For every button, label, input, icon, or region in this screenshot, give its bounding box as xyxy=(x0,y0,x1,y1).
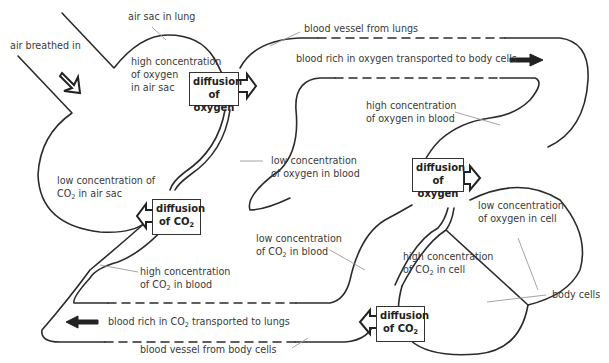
label-low-o2-blood-1: low concentration xyxy=(271,155,357,167)
label-high-o2-air-sac-3: in air sac xyxy=(131,82,175,94)
label-high-o2-blood-1: high concentration xyxy=(366,100,456,112)
box-line-2: of CO2 xyxy=(156,215,197,228)
label-air-sac-in-lung: air sac in lung xyxy=(128,11,195,23)
diffusion-oxygen-cell-box: diffusion of oxygen xyxy=(412,158,464,192)
label-low-o2-cell-1: low concentration xyxy=(478,200,564,212)
label-low-o2-cell-2: of oxygen in cell xyxy=(478,213,557,225)
label-low-co2-air-sac-1: low concentration of xyxy=(57,175,155,187)
label-vessel-from-body: blood vessel from body cells xyxy=(140,344,277,356)
lung-capillary-inner xyxy=(170,110,225,190)
diffusion-co2-cell-box: diffusion of CO2 xyxy=(376,306,425,342)
leader-low-co2-blood xyxy=(330,250,365,270)
diffusion-oxygen-lung-box: diffusion of oxygen xyxy=(189,72,239,106)
leader-high-co2-blood xyxy=(100,265,138,272)
box-line-2: of CO2 xyxy=(380,322,421,335)
label-air-breathed-in: air breathed in xyxy=(10,40,81,52)
left-arrow-icon xyxy=(66,316,98,328)
label-low-co2-blood-1: low concentration xyxy=(256,233,342,245)
box-line-2: of oxygen xyxy=(193,88,235,114)
label-high-o2-blood-2: of oxygen in blood xyxy=(366,113,455,125)
box-line-1: diffusion xyxy=(380,309,421,322)
vessel-upper-bottom xyxy=(249,78,335,210)
leader-body-cells-1 xyxy=(518,238,538,290)
air-in-arrow-icon xyxy=(60,73,80,93)
label-body-cells: body cells xyxy=(552,289,600,301)
leader-body-cells-2 xyxy=(487,295,546,302)
label-vessel-from-lungs: blood vessel from lungs xyxy=(304,23,418,35)
leader-high-o2-blood xyxy=(455,112,500,125)
label-low-co2-blood-2: of CO2 in blood xyxy=(256,246,328,258)
label-high-co2-cell-2: of CO2 in cell xyxy=(403,264,465,276)
o2-cell-arrow-icon xyxy=(464,166,480,190)
label-blood-rich-o2: blood rich in oxygen transported to body… xyxy=(296,53,517,65)
box-line-1: diffusion xyxy=(156,202,197,215)
box-line-2: of oxygen xyxy=(416,174,460,200)
label-low-o2-blood-2: of oxygen in blood xyxy=(271,168,360,180)
vessel-upper-top-end xyxy=(505,38,588,147)
label-high-o2-air-sac-2: of oxygen xyxy=(131,69,178,81)
diffusion-co2-lung-box: diffusion of CO2 xyxy=(152,199,201,235)
label-low-co2-air-sac-2: CO2 in air sac xyxy=(57,188,122,200)
airway-wall-left xyxy=(18,56,146,232)
label-blood-rich-co2: blood rich in CO2 transported to lungs xyxy=(108,316,290,328)
box-line-1: diffusion xyxy=(193,75,235,88)
label-high-co2-cell-1: high concentration xyxy=(403,251,493,263)
label-high-o2-air-sac-1: high concentration xyxy=(131,56,221,68)
leader-vessel-body xyxy=(292,338,308,348)
box-line-1: diffusion xyxy=(416,161,460,174)
leader-air-sac xyxy=(152,27,166,40)
label-high-co2-blood-2: of CO2 in blood xyxy=(140,279,212,291)
label-high-co2-blood-1: high concentration xyxy=(140,266,230,278)
